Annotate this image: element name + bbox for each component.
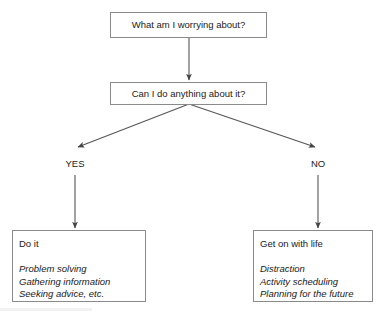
connector-control-to-no bbox=[189, 104, 315, 147]
list-item: Distraction bbox=[260, 263, 372, 276]
list-item: Planning for the future bbox=[260, 288, 372, 301]
list-item: Problem solving bbox=[19, 263, 145, 276]
list-item: Activity scheduling bbox=[260, 276, 372, 289]
node-get-on-with-life-heading: Get on with life bbox=[260, 238, 372, 250]
node-do-it-list: Problem solving Gathering information Se… bbox=[19, 263, 145, 301]
node-do-it-heading: Do it bbox=[19, 238, 145, 250]
page-edge-artifact bbox=[0, 308, 92, 311]
branch-label-yes: YES bbox=[65, 158, 84, 170]
node-get-on-with-life-list: Distraction Activity scheduling Planning… bbox=[260, 263, 372, 301]
list-item: Gathering information bbox=[19, 276, 145, 289]
list-item: Seeking advice, etc. bbox=[19, 288, 145, 301]
node-control-question[interactable]: Can I do anything about it? bbox=[110, 82, 267, 105]
connector-control-to-yes bbox=[78, 104, 189, 147]
node-control-question-label: Can I do anything about it? bbox=[132, 88, 246, 100]
node-worry-question[interactable]: What am I worrying about? bbox=[110, 12, 267, 38]
node-do-it[interactable]: Do it Problem solving Gathering informat… bbox=[12, 230, 146, 302]
flowchart-canvas: What am I worrying about? Can I do anyth… bbox=[0, 0, 384, 313]
branch-label-no: NO bbox=[311, 158, 325, 170]
node-worry-question-label: What am I worrying about? bbox=[132, 19, 246, 31]
node-get-on-with-life[interactable]: Get on with life Distraction Activity sc… bbox=[253, 230, 373, 302]
